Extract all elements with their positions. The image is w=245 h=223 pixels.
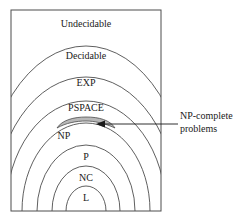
region-label-nc: NC <box>79 173 93 183</box>
region-label-np: NP <box>58 131 71 141</box>
annotation-line-1: NP-complete <box>180 109 233 122</box>
annotation-line-2: problems <box>180 122 233 135</box>
region-label-undecidable: Undecidable <box>61 19 112 29</box>
np-complete-annotation: NP-complete problems <box>180 109 233 135</box>
arc-exp <box>0 77 178 211</box>
np-complete-region <box>57 117 115 128</box>
region-label-l: L <box>83 193 89 203</box>
region-label-p: P <box>83 152 89 162</box>
region-label-pspace: PSPACE <box>68 103 104 113</box>
region-label-decidable: Decidable <box>66 51 107 61</box>
region-label-exp: EXP <box>77 78 96 88</box>
complexity-class-diagram: Undecidable Decidable EXP PSPACE NP P NC… <box>0 0 245 223</box>
